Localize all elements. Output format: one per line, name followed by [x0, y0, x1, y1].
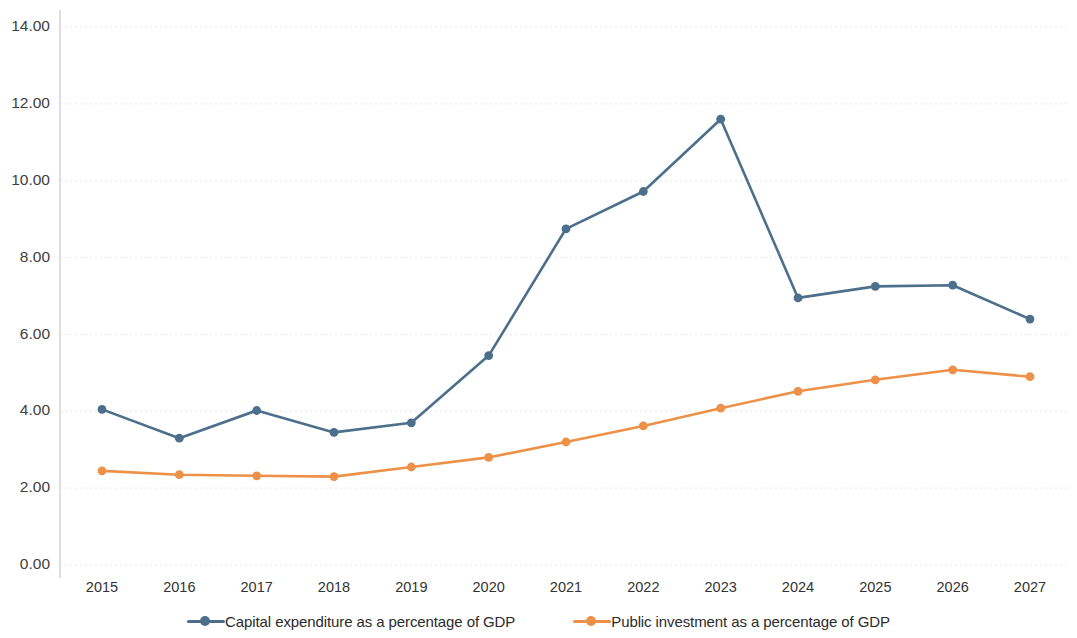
y-axis-tick-label: 4.00 — [20, 401, 51, 418]
x-axis-tick-label: 2027 — [1014, 579, 1046, 595]
data-point-marker[interactable] — [716, 404, 725, 413]
x-axis-tick-label: 2021 — [550, 579, 582, 595]
y-axis-tick-label: 0.00 — [20, 555, 51, 572]
data-point-marker[interactable] — [948, 281, 957, 290]
series-capital-expenditure — [98, 115, 1035, 443]
legend-marker-line-icon — [187, 615, 225, 627]
x-axis-tick-label: 2018 — [318, 579, 350, 595]
x-axis-labels: 2015201620172018201920202021202220232024… — [86, 579, 1046, 595]
series-line — [102, 119, 1030, 438]
y-axis-tick-label: 10.00 — [11, 171, 50, 188]
x-axis-tick-label: 2017 — [241, 579, 273, 595]
data-point-marker[interactable] — [639, 187, 648, 196]
data-point-marker[interactable] — [716, 115, 725, 124]
data-point-marker[interactable] — [562, 438, 571, 447]
data-point-marker[interactable] — [871, 282, 880, 291]
data-point-marker[interactable] — [639, 422, 648, 431]
legend-item-public-investment[interactable]: Public investment as a percentage of GDP — [573, 613, 890, 630]
y-axis-tick-label: 12.00 — [11, 94, 50, 111]
x-axis-tick-label: 2026 — [937, 579, 969, 595]
x-axis-tick-label: 2020 — [473, 579, 505, 595]
data-point-marker[interactable] — [407, 418, 416, 427]
legend-label-capital-expenditure: Capital expenditure as a percentage of G… — [225, 613, 515, 630]
data-point-marker[interactable] — [562, 224, 571, 233]
x-axis-tick-label: 2023 — [705, 579, 737, 595]
legend-marker-line-icon — [573, 615, 611, 627]
plot-area: 14.0012.0010.008.006.004.002.000.00 2015… — [0, 0, 1077, 600]
legend-item-capital-expenditure[interactable]: Capital expenditure as a percentage of G… — [187, 613, 515, 630]
data-point-marker[interactable] — [871, 375, 880, 384]
data-point-marker[interactable] — [794, 387, 803, 396]
data-point-marker[interactable] — [1026, 372, 1035, 381]
data-point-marker[interactable] — [794, 294, 803, 303]
data-point-marker[interactable] — [98, 467, 107, 476]
legend-label-public-investment: Public investment as a percentage of GDP — [611, 613, 890, 630]
data-point-marker[interactable] — [175, 470, 184, 479]
gridlines — [60, 27, 1070, 565]
data-point-marker[interactable] — [252, 406, 261, 415]
x-axis-tick-label: 2015 — [86, 579, 118, 595]
chart-canvas: 14.0012.0010.008.006.004.002.000.00 2015… — [0, 0, 1077, 600]
series-line — [102, 370, 1030, 477]
data-point-marker[interactable] — [252, 471, 261, 480]
data-point-marker[interactable] — [175, 434, 184, 443]
data-point-marker[interactable] — [98, 405, 107, 414]
data-point-marker[interactable] — [330, 472, 339, 481]
line-chart: 14.0012.0010.008.006.004.002.000.00 2015… — [0, 0, 1077, 638]
x-axis-tick-label: 2022 — [627, 579, 659, 595]
data-point-marker[interactable] — [948, 365, 957, 374]
data-point-marker[interactable] — [484, 453, 493, 462]
y-axis-tick-label: 6.00 — [20, 325, 51, 342]
x-axis-tick-label: 2016 — [163, 579, 195, 595]
x-axis-tick-label: 2019 — [395, 579, 427, 595]
x-axis-tick-label: 2025 — [859, 579, 891, 595]
data-point-marker[interactable] — [330, 428, 339, 437]
series-public-investment — [98, 365, 1035, 481]
y-axis-tick-label: 8.00 — [20, 248, 51, 265]
y-axis-tick-label: 14.00 — [11, 17, 50, 34]
data-point-marker[interactable] — [484, 351, 493, 360]
data-point-marker[interactable] — [1026, 315, 1035, 324]
data-point-marker[interactable] — [407, 463, 416, 472]
x-axis-tick-label: 2024 — [782, 579, 814, 595]
y-axis-tick-label: 2.00 — [20, 478, 51, 495]
y-axis-labels: 14.0012.0010.008.006.004.002.000.00 — [11, 17, 50, 572]
chart-legend: Capital expenditure as a percentage of G… — [0, 604, 1077, 638]
